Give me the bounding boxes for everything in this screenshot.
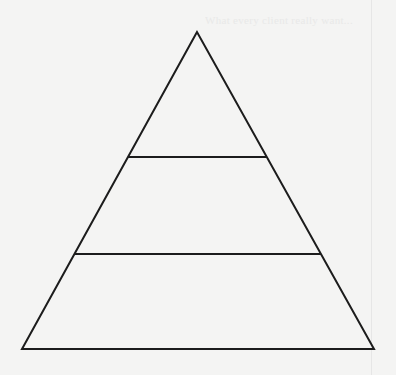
pyramid-diagram xyxy=(0,0,396,375)
worksheet-page: What every client really want... xyxy=(0,0,396,375)
pyramid-outline xyxy=(22,32,374,349)
